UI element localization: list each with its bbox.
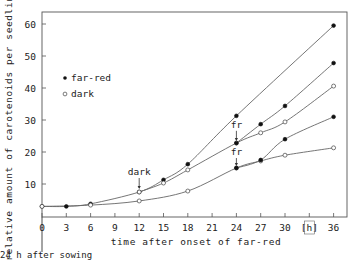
x-tick-label: 12 (133, 222, 144, 233)
y-tick-label: 40 (25, 83, 37, 94)
y-tick-label: 60 (25, 19, 37, 30)
far-red-point (259, 122, 263, 126)
dark-point (186, 189, 190, 193)
series-line (236, 117, 333, 168)
x-tick-label: [h] (301, 222, 318, 233)
dark-annotation: dark (128, 166, 151, 177)
y-axis-label: relative amount of carotenoids per seedl… (3, 0, 14, 261)
x-tick-label: 21 (206, 222, 218, 233)
y-tick-label: 50 (25, 51, 37, 62)
sowing-note: 24 h after sowing (0, 250, 92, 260)
series-line (236, 63, 333, 143)
y-tick-label: 10 (25, 179, 37, 190)
far-red-point (283, 104, 287, 108)
far-red-point (332, 24, 336, 28)
dark-point (283, 120, 287, 124)
x-tick-label: 3 (63, 222, 69, 233)
x-axis-label: time after onset of far-red (111, 236, 282, 247)
legend-dark-marker (63, 92, 67, 96)
plot-frame (42, 12, 347, 252)
far-red-point (332, 115, 336, 119)
plot-border (42, 12, 347, 217)
data-lines (42, 26, 334, 207)
far-red-point (235, 141, 239, 145)
arrow-head (235, 138, 238, 141)
far-red-point (64, 205, 68, 209)
far-red-point (283, 137, 287, 141)
x-tick-label: 30 (279, 222, 291, 233)
dark-point (137, 199, 141, 203)
fr-annotation: fr (231, 146, 243, 157)
y-tick-label: 30 (25, 115, 37, 126)
far-red-point (259, 158, 263, 162)
arrow-head (235, 163, 238, 166)
x-tick-label: 9 (112, 222, 118, 233)
x-tick-label: 36 (328, 222, 340, 233)
legend: far-reddark (63, 72, 111, 99)
far-red-point (235, 166, 239, 170)
data-points (40, 24, 336, 209)
legend-label: dark (71, 88, 94, 99)
carotenoid-chart: 036912151821242730[h]36102030405060 dark… (0, 0, 359, 267)
dark-point (162, 181, 166, 185)
x-tick-label: 18 (182, 222, 194, 233)
annotations: darkfrfr (128, 119, 243, 189)
x-tick-label: 0 (39, 222, 45, 233)
x-tick-label: 15 (158, 222, 169, 233)
legend-far-red-marker (63, 76, 67, 80)
fr-annotation: fr (231, 119, 243, 130)
x-tick-label: 27 (255, 222, 266, 233)
axis-ticks: 036912151821242730[h]36102030405060 (25, 19, 340, 235)
dark-point (332, 84, 336, 88)
arrow-head (138, 186, 141, 189)
dark-point (332, 146, 336, 150)
dark-point (186, 168, 190, 172)
series-line (42, 26, 334, 207)
dark-point (40, 204, 44, 208)
legend-label: far-red (71, 72, 111, 83)
x-tick-label: 6 (88, 222, 94, 233)
series-line (42, 148, 334, 207)
x-tick-label: 24 (231, 222, 243, 233)
dark-point (283, 153, 287, 157)
y-tick-label: 20 (25, 147, 37, 158)
far-red-point (235, 114, 239, 118)
dark-point (89, 203, 93, 207)
far-red-point (332, 61, 336, 65)
far-red-point (186, 162, 190, 166)
dark-point (137, 190, 141, 194)
dark-point (259, 131, 263, 135)
